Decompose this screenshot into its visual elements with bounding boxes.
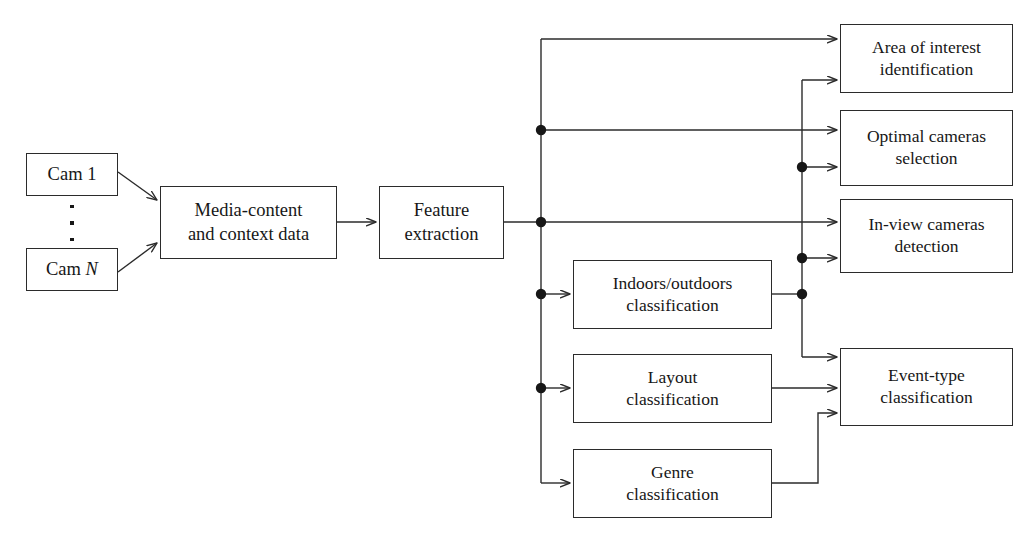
ellipsis-dot [70, 221, 73, 224]
node-media-content-and-context-data: Media-content and context data [160, 186, 337, 259]
edge-genre-to-event-type [772, 413, 837, 483]
node-cam-1: Cam 1 [26, 153, 118, 196]
node-feature-extraction: Feature extraction [379, 186, 504, 259]
node-cam-n: Cam N [26, 248, 118, 291]
node-media-content-label: Media-content and context data [182, 199, 315, 245]
node-indoors-outdoors-label: Indoors/outdoors classification [607, 273, 739, 317]
ellipsis-dot [70, 205, 73, 208]
junction-dot [536, 383, 546, 393]
junction-dot [797, 253, 807, 263]
node-area-of-interest-identification: Area of interest identification [840, 24, 1013, 93]
node-layout-classification-label: Layout classification [620, 367, 724, 411]
node-genre-classification: Genre classification [573, 449, 772, 518]
ellipsis-dot [70, 238, 73, 241]
junction-dot [797, 162, 807, 172]
node-indoors-outdoors-classification: Indoors/outdoors classification [573, 260, 772, 329]
junction-dot [536, 217, 546, 227]
node-in-view-cameras-label: In-view cameras detection [862, 214, 990, 258]
junction-dot [536, 289, 546, 299]
node-genre-classification-label: Genre classification [620, 462, 724, 506]
node-cam-1-label: Cam 1 [42, 163, 103, 186]
junction-dots [536, 125, 807, 393]
node-feature-extraction-label: Feature extraction [399, 199, 485, 245]
node-cam-n-label: Cam N [40, 258, 104, 281]
diagram-canvas: Cam 1 Cam N Media-content and context da… [0, 0, 1031, 538]
node-optimal-cameras-selection: Optimal cameras selection [840, 110, 1013, 186]
vertical-ellipsis-icon [69, 205, 75, 241]
edge-camN-to-media [118, 243, 157, 272]
node-optimal-cameras-label: Optimal cameras selection [861, 126, 992, 170]
node-event-type-label: Event-type classification [874, 365, 978, 409]
node-layout-classification: Layout classification [573, 354, 772, 423]
node-in-view-cameras-detection: In-view cameras detection [840, 199, 1013, 273]
node-event-type-classification: Event-type classification [840, 348, 1013, 426]
junction-dot [797, 289, 807, 299]
edge-cam1-to-media [118, 172, 157, 200]
node-area-of-interest-label: Area of interest identification [866, 37, 987, 81]
junction-dot [536, 125, 546, 135]
